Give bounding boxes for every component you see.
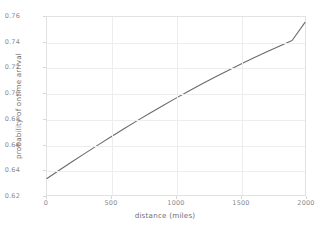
gridline-vertical (177, 17, 178, 195)
y-tick-mark (43, 145, 46, 146)
chart-figure: 0.620.640.660.680.700.720.740.76 0500100… (0, 0, 330, 237)
x-tick-mark (46, 196, 47, 199)
x-tick-label: 2000 (276, 200, 330, 207)
x-axis-title: distance (miles) (0, 211, 330, 220)
y-tick-mark (43, 67, 46, 68)
y-tick-mark (43, 170, 46, 171)
x-tick-label: 1500 (211, 200, 271, 207)
gridline-horizontal (47, 146, 305, 147)
plot-area (46, 16, 306, 196)
x-tick-mark (111, 196, 112, 199)
gridline-vertical (242, 17, 243, 195)
series-line-probability-of-ontime-arrival (47, 22, 305, 178)
y-tick-mark (43, 93, 46, 94)
gridline-horizontal (47, 94, 305, 95)
gridline-horizontal (47, 43, 305, 44)
y-tick-mark (43, 42, 46, 43)
gridline-horizontal (47, 68, 305, 69)
x-tick-mark (241, 196, 242, 199)
x-tick-mark (306, 196, 307, 199)
gridline-horizontal (47, 171, 305, 172)
x-tick-label: 1000 (146, 200, 206, 207)
x-tick-label: 500 (81, 200, 141, 207)
y-tick-mark (43, 119, 46, 120)
x-tick-label: 0 (16, 200, 76, 207)
y-tick-mark (43, 16, 46, 17)
gridline-horizontal (47, 120, 305, 121)
y-axis-title: probability of ontime arrival (14, 16, 26, 196)
gridline-vertical (112, 17, 113, 195)
x-tick-mark (176, 196, 177, 199)
